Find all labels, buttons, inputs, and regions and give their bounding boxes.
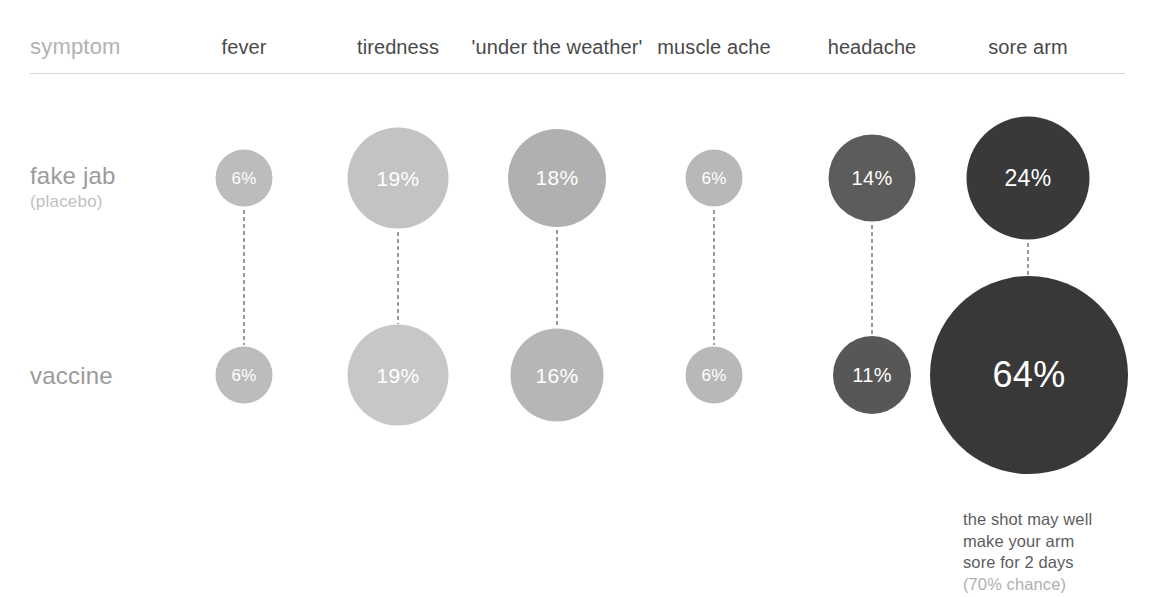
connector-line-tiredness <box>397 232 399 324</box>
column-header-headache: headache <box>828 36 917 59</box>
bubble-value-label: 16% <box>536 364 579 385</box>
column-header-muscle-ache: muscle ache <box>657 36 770 59</box>
bubble-value-label: 18% <box>536 167 579 188</box>
bubble-fake-jab-fever[interactable]: 6% <box>216 150 273 207</box>
bubble-fake-jab-muscle-ache[interactable]: 6% <box>686 150 743 207</box>
connector-line-under-the-weather <box>556 230 558 328</box>
row-label-vaccine: vaccine <box>30 362 113 390</box>
bubble-value-label: 19% <box>377 364 420 385</box>
bubble-value-label: 64% <box>993 357 1066 393</box>
column-header-tiredness: tiredness <box>357 36 439 59</box>
column-header-fever: fever <box>222 36 267 59</box>
bubble-value-label: 11% <box>852 365 891 385</box>
annotation-sore-arm: the shot may well make your arm sore for… <box>963 487 1143 597</box>
connector-line-muscle-ache <box>713 210 715 345</box>
row-label-vaccine-text: vaccine <box>30 362 113 389</box>
bubble-fake-jab-sore-arm[interactable]: 24% <box>967 117 1090 240</box>
bubble-value-label: 19% <box>377 167 420 188</box>
connector-line-sore-arm <box>1027 243 1029 275</box>
bubble-vaccine-fever[interactable]: 6% <box>216 347 273 404</box>
column-header-under-the-weather: 'under the weather' <box>472 36 643 59</box>
row-label-fake-jab-text: fake jab <box>30 162 116 189</box>
connector-line-fever <box>243 210 245 345</box>
bubble-vaccine-headache[interactable]: 11% <box>833 336 911 414</box>
bubble-vaccine-tiredness[interactable]: 19% <box>348 325 449 426</box>
bubble-fake-jab-under-the-weather[interactable]: 18% <box>508 129 606 227</box>
column-header-sore-arm: sore arm <box>988 36 1068 59</box>
bubble-fake-jab-headache[interactable]: 14% <box>829 135 916 222</box>
bubble-vaccine-under-the-weather[interactable]: 16% <box>511 329 604 422</box>
bubble-value-label: 6% <box>701 169 726 186</box>
row-label-fake-jab: fake jab (placebo) <box>30 162 116 212</box>
bubble-value-label: 6% <box>701 366 726 383</box>
bubble-fake-jab-tiredness[interactable]: 19% <box>348 128 449 229</box>
annotation-text: the shot may well make your arm sore for… <box>963 510 1092 572</box>
bubble-value-label: 6% <box>231 169 256 186</box>
symptom-column-header: symptom <box>30 34 121 60</box>
row-label-fake-jab-subtitle: (placebo) <box>30 192 116 212</box>
connector-line-headache <box>871 225 873 335</box>
bubble-value-label: 14% <box>852 168 893 188</box>
bubble-value-label: 24% <box>1005 166 1052 189</box>
bubble-vaccine-muscle-ache[interactable]: 6% <box>686 347 743 404</box>
bubble-value-label: 6% <box>231 366 256 383</box>
header-divider-rule <box>30 73 1125 74</box>
bubble-vaccine-sore-arm[interactable]: 64% <box>930 276 1128 474</box>
annotation-chance: (70% chance) <box>963 574 1143 596</box>
